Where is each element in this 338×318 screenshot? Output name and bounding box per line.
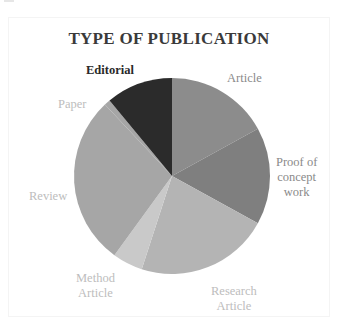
label-proof-line1: Proof of	[276, 155, 317, 170]
label-paper: Paper	[58, 97, 86, 112]
label-method-line2: Article	[76, 286, 115, 301]
label-proof-of-concept: Proof of concept work	[276, 155, 317, 200]
label-proof-line3: work	[276, 185, 317, 200]
label-review: Review	[29, 189, 67, 204]
label-article: Article	[227, 71, 262, 86]
label-research-line1: Research	[211, 284, 257, 299]
label-method-article: Method Article	[76, 271, 115, 301]
label-editorial: Editorial	[86, 63, 134, 78]
label-method-line1: Method	[76, 271, 115, 286]
label-proof-line2: concept	[276, 170, 317, 185]
label-research-line2: Article	[211, 299, 257, 314]
pie-slices	[74, 78, 270, 274]
label-research-article: Research Article	[211, 284, 257, 314]
